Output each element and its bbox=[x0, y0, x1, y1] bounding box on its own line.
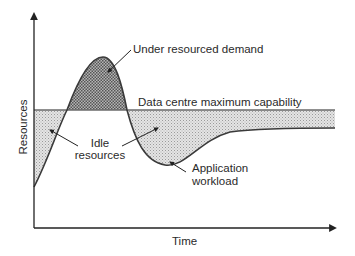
x-axis-label: Time bbox=[172, 235, 197, 247]
workload-label-line2: workload bbox=[191, 175, 238, 187]
capacity-label: Data centre maximum capability bbox=[138, 96, 302, 108]
y-axis-label: Resources bbox=[17, 99, 29, 154]
idle-label-line2: resources bbox=[75, 149, 126, 161]
resource-diagram: Resources Time Under resourced demand Da… bbox=[0, 0, 355, 256]
under-resourced-label: Under resourced demand bbox=[133, 43, 263, 55]
idle-label-line1: Idle bbox=[91, 137, 110, 149]
workload-label-line1: Application bbox=[192, 162, 248, 174]
under-resourced-region bbox=[67, 57, 127, 110]
